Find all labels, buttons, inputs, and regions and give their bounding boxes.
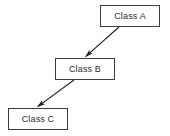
node-class-b-label: Class B (69, 64, 101, 74)
edge-class-b-to-class-c (38, 80, 74, 107)
node-class-c[interactable]: Class C (8, 108, 68, 130)
node-class-a-label: Class A (114, 11, 146, 21)
node-class-b[interactable]: Class B (55, 58, 115, 80)
node-class-a[interactable]: Class A (100, 5, 160, 27)
diagram-canvas: Class A Class B Class C (0, 0, 170, 136)
node-class-c-label: Class C (22, 114, 55, 124)
edge-class-a-to-class-b (86, 27, 119, 57)
